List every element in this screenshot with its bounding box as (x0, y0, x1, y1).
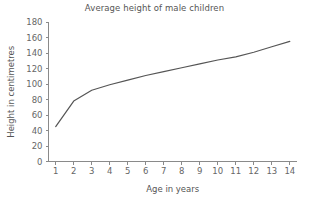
line-chart-plot: 020406080100120140160180 123456789101112… (0, 0, 309, 199)
x-tick-label: 4 (107, 166, 112, 176)
x-tick-label: 12 (248, 166, 259, 176)
x-tick-label: 7 (161, 166, 166, 176)
x-tick-label: 14 (284, 166, 295, 176)
x-axis-tick-labels: 1234567891011121314 (53, 166, 295, 176)
x-tick-label: 9 (197, 166, 202, 176)
y-axis-title: Height in centimetres (6, 45, 16, 138)
y-axis-tick-labels: 020406080100120140160180 (26, 17, 42, 167)
y-tick-label: 40 (32, 126, 43, 136)
x-axis-title: Age in years (146, 184, 200, 194)
y-tick-label: 160 (26, 33, 42, 43)
x-tick-label: 1 (53, 166, 58, 176)
y-tick-label: 100 (26, 79, 42, 89)
x-tick-label: 8 (179, 166, 184, 176)
x-tick-label: 11 (230, 166, 241, 176)
x-tick-label: 6 (143, 166, 148, 176)
x-tick-label: 10 (212, 166, 223, 176)
y-tick-label: 60 (32, 110, 43, 120)
y-tick-label: 20 (32, 141, 43, 151)
x-tick-label: 5 (125, 166, 130, 176)
y-tick-label: 0 (37, 157, 42, 167)
x-tick-label: 2 (71, 166, 76, 176)
y-tick-label: 80 (32, 95, 43, 105)
y-tick-label: 180 (26, 17, 42, 27)
y-tick-label: 120 (26, 64, 42, 74)
y-tick-label: 140 (26, 48, 42, 58)
x-tick-label: 3 (89, 166, 94, 176)
x-tick-label: 13 (266, 166, 277, 176)
height-data-line (56, 41, 290, 126)
chart-container: Average height of male children 02040608… (0, 0, 309, 199)
